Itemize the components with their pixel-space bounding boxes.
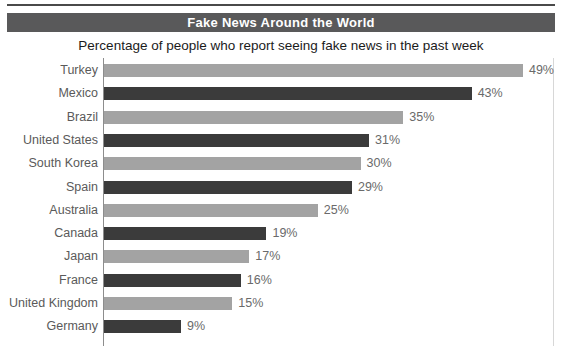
bar-value-label: 49%	[529, 59, 554, 82]
chart-title: Fake News Around the World	[187, 15, 375, 30]
category-label: Australia	[0, 199, 98, 222]
bar	[104, 64, 523, 77]
bar-row: South Korea30%	[0, 152, 562, 175]
bar	[104, 274, 241, 287]
bar-value-label: 15%	[238, 292, 263, 315]
category-label: Canada	[0, 222, 98, 245]
category-label: Mexico	[0, 82, 98, 105]
bar-row: Mexico43%	[0, 82, 562, 105]
bar-value-label: 17%	[255, 245, 280, 268]
bar	[104, 181, 352, 194]
bar	[104, 227, 266, 240]
bar	[104, 87, 472, 100]
top-divider-rule	[7, 4, 555, 6]
bar-row: Japan17%	[0, 245, 562, 268]
bar-row: France16%	[0, 269, 562, 292]
chart-subtitle: Percentage of people who report seeing f…	[7, 38, 555, 53]
bar	[104, 250, 249, 263]
chart-figure: Fake News Around the World Percentage of…	[0, 0, 562, 358]
plot-area: Turkey49%Mexico43%Brazil35%United States…	[0, 58, 562, 354]
bar-value-label: 19%	[272, 222, 297, 245]
category-label: Brazil	[0, 106, 98, 129]
bar-row: Turkey49%	[0, 59, 562, 82]
bar	[104, 157, 361, 170]
bar-value-label: 9%	[187, 315, 205, 338]
bar-value-label: 31%	[375, 129, 400, 152]
bar	[104, 320, 181, 333]
bar	[104, 297, 232, 310]
bar-value-label: 16%	[247, 269, 272, 292]
bar-value-label: 25%	[324, 199, 349, 222]
category-label: United States	[0, 129, 98, 152]
category-label: Germany	[0, 315, 98, 338]
bar-row: United Kingdom15%	[0, 292, 562, 315]
bar	[104, 204, 318, 217]
bar-row: Canada19%	[0, 222, 562, 245]
bar-row: United States31%	[0, 129, 562, 152]
bar-row: Spain29%	[0, 176, 562, 199]
bar-value-label: 30%	[367, 152, 392, 175]
category-label: South Korea	[0, 152, 98, 175]
category-label: United Kingdom	[0, 292, 98, 315]
bar-row: Australia25%	[0, 199, 562, 222]
category-label: Turkey	[0, 59, 98, 82]
category-label: Japan	[0, 245, 98, 268]
bar	[104, 111, 403, 124]
bar-row: Germany9%	[0, 315, 562, 338]
bar	[104, 134, 369, 147]
bar-row: Brazil35%	[0, 106, 562, 129]
category-label: Spain	[0, 176, 98, 199]
bar-value-label: 43%	[478, 82, 503, 105]
bar-value-label: 29%	[358, 176, 383, 199]
category-label: France	[0, 269, 98, 292]
bar-value-label: 35%	[409, 106, 434, 129]
chart-title-banner: Fake News Around the World	[7, 13, 555, 32]
